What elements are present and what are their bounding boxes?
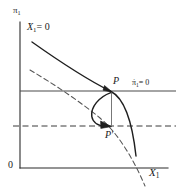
y-axis-label: π1 [13, 6, 21, 16]
y-axis-subscript: 1 [18, 10, 21, 16]
origin-label: 0 [8, 160, 13, 170]
overdot-accent-icon: · [29, 19, 32, 28]
xdot-equals: = 0 [37, 21, 50, 32]
pidot-symbol-wrapper: ·π [132, 79, 136, 87]
axis-group [20, 22, 168, 168]
xdot-symbol-wrapper: ·X [27, 22, 33, 32]
phase-diagram-figure: π1 X1 0 ·X1= 0 ·π1= 0 P P′ [0, 0, 176, 188]
overdot-accent-icon: · [133, 77, 135, 84]
x-axis-subscript: 1 [156, 171, 160, 180]
pidot-zero-line-label: ·π1= 0 [132, 79, 149, 88]
xdot-zero-locus-curve [32, 42, 136, 156]
shifted-locus-dashed-curve [30, 70, 145, 186]
x-axis-symbol: X [149, 166, 156, 178]
xdot-zero-locus-label: ·X1= 0 [27, 22, 50, 34]
pidot-equals: = 0 [139, 78, 150, 87]
x-axis-label: X1 [149, 167, 159, 180]
point-p-label: P [113, 76, 119, 86]
point-p-prime-label: P′ [105, 130, 113, 140]
